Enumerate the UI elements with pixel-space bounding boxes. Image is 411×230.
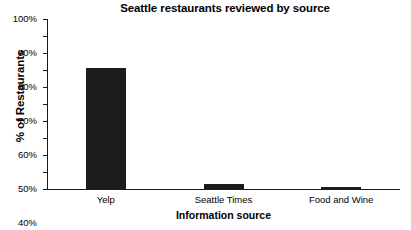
y-axis-tick: 90% bbox=[43, 36, 47, 37]
y-axis-tick: 40% bbox=[43, 121, 47, 122]
x-axis-label: Yelp bbox=[97, 194, 115, 205]
plot-area: 100%90%80%70%60%50%40%30%20%10%0% YelpSe… bbox=[47, 19, 400, 189]
y-axis-line bbox=[47, 19, 48, 190]
y-axis-tick: 10% bbox=[43, 172, 47, 173]
y-axis-tick: 50% bbox=[43, 104, 47, 105]
bar-seattle-times[interactable] bbox=[204, 184, 244, 189]
bar-chart: Seattle restaurants reviewed by source %… bbox=[0, 0, 411, 230]
bar-yelp[interactable] bbox=[86, 68, 126, 189]
y-axis-tick-label: 50% bbox=[18, 184, 37, 194]
y-axis-tick: 100% bbox=[43, 19, 47, 20]
y-axis-tick-label: 100% bbox=[13, 14, 37, 24]
chart-title: Seattle restaurants reviewed by source bbox=[50, 2, 400, 14]
y-axis-tick-label: 80% bbox=[18, 82, 37, 92]
x-axis-label: Seattle Times bbox=[195, 194, 253, 205]
y-axis-tick-label: 40% bbox=[18, 218, 37, 228]
y-axis-tick: 30% bbox=[43, 138, 47, 139]
bar-food-and-wine[interactable] bbox=[321, 187, 361, 189]
x-axis-label: Food and Wine bbox=[309, 194, 373, 205]
y-axis-tick: 0% bbox=[43, 189, 47, 190]
x-axis-line bbox=[47, 189, 400, 190]
y-axis-tick-label: 70% bbox=[18, 116, 37, 126]
y-axis-tick-label: 60% bbox=[18, 150, 37, 160]
x-axis-title: Information source bbox=[47, 209, 400, 221]
y-axis-tick-label: 90% bbox=[18, 48, 37, 58]
y-axis-tick: 20% bbox=[43, 155, 47, 156]
y-axis-tick: 80% bbox=[43, 53, 47, 54]
y-axis-tick: 70% bbox=[43, 70, 47, 71]
y-axis-tick: 60% bbox=[43, 87, 47, 88]
